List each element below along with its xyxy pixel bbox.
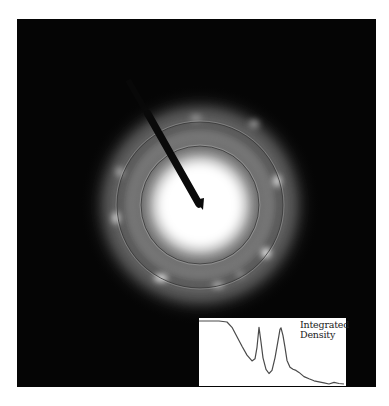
diffraction-figure: Integrated Density [0, 0, 389, 406]
inset-label-line2: Density [300, 330, 349, 340]
integrated-density-inset: Integrated Density [199, 318, 346, 386]
inset-label: Integrated Density [300, 320, 349, 340]
